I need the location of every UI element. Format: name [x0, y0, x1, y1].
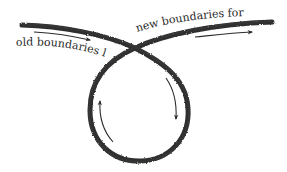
- arrow-top-right-icon: [195, 32, 252, 37]
- boundary-loop-diagram: old boundaries lost new boundaries forme…: [0, 0, 287, 172]
- arrow-inner-left-icon: [100, 101, 113, 142]
- diagram-svg: old boundaries lost new boundaries forme…: [0, 0, 287, 172]
- arrow-inner-right-icon: [166, 78, 176, 119]
- label-old-boundaries-lost: old boundaries lost: [0, 0, 109, 60]
